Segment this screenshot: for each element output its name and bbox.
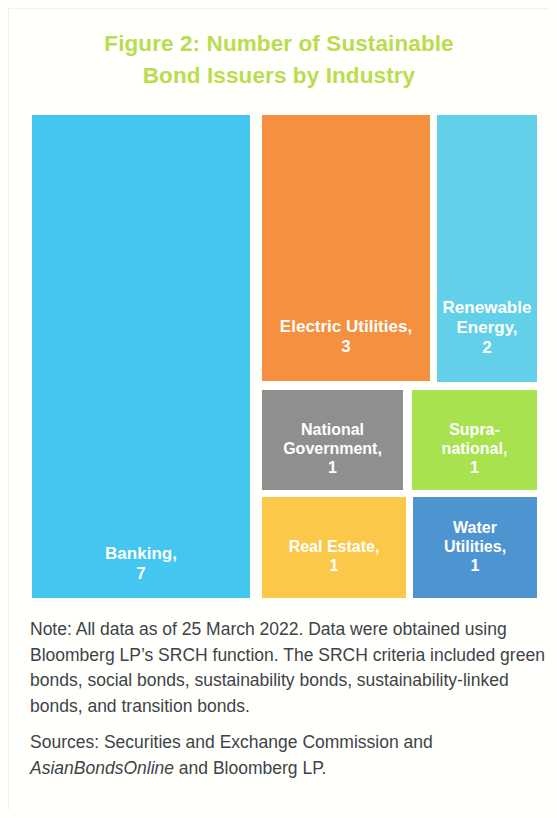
treemap-tile-supra-national[interactable]: Supra- national, 1 — [412, 390, 537, 490]
treemap-tile-real-estate[interactable]: Real Estate, 1 — [262, 497, 406, 598]
tile-value-national-government: 1 — [328, 459, 337, 478]
tile-value-banking: 7 — [136, 564, 145, 584]
figure-note: Note: All data as of 25 March 2022. Data… — [30, 617, 550, 719]
figure-container: Figure 2: Number of Sustainable Bond Iss… — [0, 0, 557, 818]
sources-suffix: and Bloomberg LP. — [174, 758, 326, 778]
treemap-tile-electric-utilities[interactable]: Electric Utilities, 3 — [262, 115, 430, 381]
tile-label-water-utilities: Water Utilities, — [444, 519, 506, 557]
tile-value-real-estate: 1 — [330, 557, 339, 576]
treemap-tile-water-utilities[interactable]: Water Utilities, 1 — [413, 497, 537, 598]
tile-label-national-government: National Government, — [283, 421, 382, 459]
sources-publication-name: AsianBondsOnline — [30, 758, 174, 778]
tile-value-electric-utilities: 3 — [341, 337, 350, 357]
figure-footnotes: Note: All data as of 25 March 2022. Data… — [30, 617, 550, 781]
tile-label-renewable-energy: Renewable Energy, — [443, 298, 532, 338]
treemap-tile-banking[interactable]: Banking, 7 — [32, 115, 250, 598]
treemap-tile-national-government[interactable]: National Government, 1 — [262, 390, 403, 490]
sources-prefix: Sources: Securities and Exchange Commiss… — [30, 732, 433, 752]
tile-label-electric-utilities: Electric Utilities, — [280, 317, 412, 337]
tile-label-supra-national: Supra- national, — [442, 421, 508, 459]
tile-label-real-estate: Real Estate, — [289, 538, 380, 557]
treemap-tile-renewable-energy[interactable]: Renewable Energy, 2 — [437, 115, 537, 382]
figure-sources: Sources: Securities and Exchange Commiss… — [30, 730, 550, 781]
tile-value-supra-national: 1 — [470, 459, 479, 478]
tile-value-water-utilities: 1 — [471, 557, 480, 576]
tile-value-renewable-energy: 2 — [482, 338, 491, 358]
tile-label-banking: Banking, — [105, 544, 177, 564]
